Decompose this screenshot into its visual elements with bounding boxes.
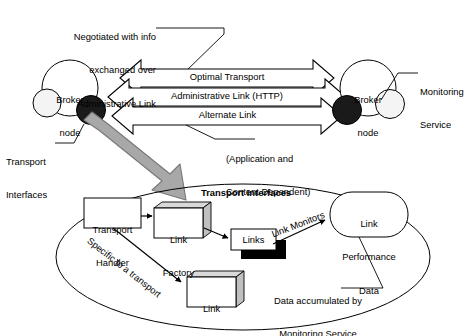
annotation-negotiated-line-1: Negotiated with info	[22, 31, 156, 42]
broker-right-label-line-1: Broker	[340, 94, 396, 105]
data-accumulated-line-2: Monitoring Service	[248, 328, 388, 336]
link-factory-top-line-1: Link	[154, 234, 203, 245]
link-label-alternate-link: Alternate Link	[150, 109, 305, 120]
link-factory-top-line-2: Factory	[154, 267, 203, 278]
annotation-data-accumulated: Data accumulated by Monitoring Service	[248, 273, 388, 336]
detail-panel-heading: Transport Interfaces	[183, 187, 309, 198]
monitoring-service-line-2: Service	[420, 119, 473, 130]
link-factory-bottom-line-1: Link	[187, 303, 236, 314]
monitoring-service-line-1: Monitoring	[420, 86, 473, 97]
lpd-line-1: Link	[330, 218, 408, 229]
broker-left-label-line-1: Broker	[42, 94, 98, 105]
app-content-line-1: (Application and	[226, 153, 356, 164]
annotation-monitoring-service: Monitoring Service	[420, 64, 473, 153]
lpd-line-2: Performance	[330, 251, 408, 262]
transport-interfaces-diagram: Negotiated with info exchanged over Admi…	[0, 0, 473, 336]
annotation-transport-interfaces-callout: Transport Interfaces	[6, 134, 70, 223]
link-label-optimal-transport: Optimal Transport	[157, 71, 297, 82]
negotiated-leader-line	[156, 28, 224, 74]
transport-handler-line-1: Transport	[84, 224, 141, 235]
link-factory-bottom-label: Link Factory	[187, 281, 236, 336]
link-label-administrative-link: Administrative Link (HTTP)	[143, 90, 311, 101]
data-accumulated-line-1: Data accumulated by	[248, 295, 388, 306]
ti-callout-line-2: Interfaces	[6, 189, 70, 200]
links-box-label: Links	[231, 234, 276, 245]
ti-callout-line-1: Transport	[6, 156, 70, 167]
